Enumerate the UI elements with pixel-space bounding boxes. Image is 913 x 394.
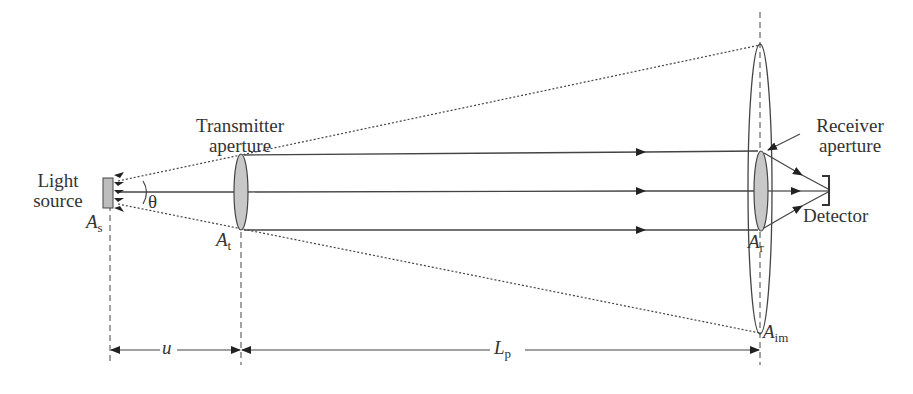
- theta-label: θ: [148, 192, 157, 212]
- transmitter-lens: [234, 154, 248, 230]
- receiver-aperture-label: Receiver aperture: [790, 116, 910, 156]
- transmitter-aperture-label: Transmitter aperture: [180, 116, 300, 156]
- image-area-label: Aim: [763, 322, 788, 348]
- receiver-area-label: Ar: [748, 232, 764, 258]
- beams: [244, 151, 758, 230]
- detector-label: Detector: [803, 206, 868, 226]
- light-source-block: [103, 178, 113, 208]
- reference-lines: [110, 12, 760, 365]
- light-source-label: Light source: [28, 171, 88, 211]
- divergence-cone: [118, 45, 760, 333]
- distance-lp-label: Lp: [494, 338, 511, 364]
- source-area-label: As: [86, 212, 103, 238]
- distance-u-label: u: [162, 338, 172, 358]
- transmitter-area-label: At: [216, 230, 231, 256]
- receiver-lens: [754, 151, 768, 231]
